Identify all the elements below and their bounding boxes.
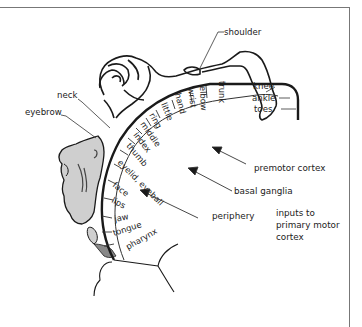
label-trunk: trunk bbox=[217, 81, 227, 103]
label-inputs-line1: inputs to bbox=[276, 208, 315, 218]
label-ankle: ankle bbox=[252, 93, 275, 103]
label-eyebrow: eyebrow bbox=[25, 107, 62, 117]
label-inputs-line3: cortex bbox=[276, 232, 304, 242]
label-basal-ganglia: basal ganglia bbox=[234, 186, 293, 196]
label-neck: neck bbox=[57, 90, 77, 100]
input-arrows bbox=[140, 147, 246, 218]
label-shoulder: shoulder bbox=[224, 27, 262, 37]
label-periphery: periphery bbox=[212, 211, 254, 221]
label-hand: hand bbox=[173, 92, 188, 115]
label-premotor-cortex: premotor cortex bbox=[254, 163, 325, 173]
label-knee: knee bbox=[253, 81, 274, 91]
label-jaw: jaw bbox=[112, 211, 129, 224]
face-illustration bbox=[59, 136, 116, 258]
label-elbow: elbow bbox=[198, 86, 209, 111]
label-wrist: wrist bbox=[186, 87, 199, 109]
label-toes: toes bbox=[254, 104, 273, 114]
label-inputs-line2: primary motor bbox=[276, 220, 340, 230]
